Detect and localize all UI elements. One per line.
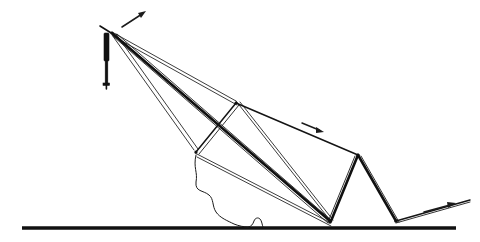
upper-cable-a [112, 32, 236, 101]
mast-rotation-arrow-shaft [122, 14, 142, 27]
boom-travel-arrow-head [316, 127, 324, 133]
ramp-member-edge [396, 202, 470, 223]
ramp-group [396, 200, 470, 223]
node-ground-anchor-right [394, 219, 398, 223]
mast-upper-segment [104, 33, 109, 61]
boom-travel-arrow [302, 123, 324, 133]
mast-rotation-arrow [122, 11, 146, 27]
node-mast-head-hub [110, 31, 113, 34]
node-aframe-apex [356, 153, 359, 156]
lower-cable-b [116, 34, 198, 149]
rigging-diagram-canvas [0, 0, 480, 242]
aframe-left-leg [331, 155, 358, 221]
aframe-right-leg [358, 155, 396, 221]
main-boom [113, 34, 330, 221]
aframe-group [328, 155, 399, 222]
node-ground-anchor-left [328, 220, 332, 224]
upper-cable-b-cont [240, 102, 333, 220]
aframe-left-leg-edge [328, 156, 355, 222]
mast-lower-segment [105, 60, 108, 84]
node-upper-linkage-joint [234, 101, 237, 104]
node-lower-linkage-joint [194, 150, 197, 153]
joint-nodes-group [110, 31, 397, 223]
mast-rotation-arrow-head [138, 11, 146, 18]
draped-net-curve [195, 155, 263, 227]
long-cable-b [117, 34, 331, 220]
top-chord [236, 103, 358, 155]
long-cable-a [114, 37, 328, 223]
aframe-right-leg-edge [361, 156, 399, 222]
ramp-member [396, 200, 470, 221]
diagram-root [0, 0, 480, 242]
